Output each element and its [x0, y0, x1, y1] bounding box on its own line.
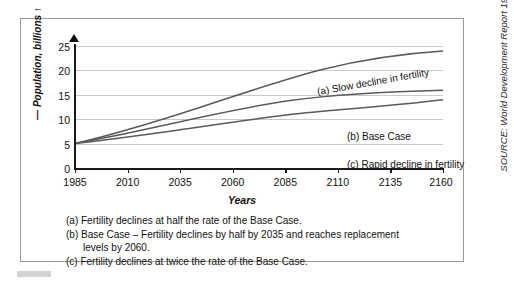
curve-label-b: (b) Base Case — [347, 131, 411, 142]
y-tick-label: 25 — [46, 42, 70, 53]
plot-area: (a) Slow decline in fertility (b) Base C… — [75, 46, 443, 168]
x-axis-title: Years — [20, 194, 464, 206]
x-tick-label: 2010 — [116, 176, 139, 188]
footnote-a: (a) Fertility declines at half the rate … — [66, 214, 456, 228]
y-axis-line — [74, 44, 76, 170]
y-tick-label: 10 — [46, 115, 70, 126]
x-tick-label: 2160 — [429, 176, 452, 188]
x-tick-label: 2085 — [274, 176, 297, 188]
chart-footnotes: (a) Fertility declines at half the rate … — [66, 214, 456, 268]
x-axis-ticks: 1985 2010 2035 2060 2085 2110 2135 2160 — [20, 168, 464, 194]
y-tick-label: 20 — [46, 66, 70, 77]
footnote-b-cont: levels by 2060. — [66, 241, 456, 255]
source-credit: SOURCE: World Development Report 1992 — [494, 0, 512, 288]
footnote-c: (c) Fertility declines at twice the rate… — [66, 255, 456, 269]
curve-a-slow-decline — [75, 51, 443, 144]
x-tickmark — [285, 168, 286, 173]
population-projection-chart: (a) Slow decline in fertility (b) Base C… — [20, 18, 464, 262]
y-axis-arrow-icon — [69, 34, 79, 42]
x-tick-label: 2035 — [168, 176, 191, 188]
source-credit-text: SOURCE: World Development Report 1992 — [498, 0, 509, 172]
projection-curves — [75, 46, 443, 168]
x-tickmark — [180, 168, 181, 173]
x-tick-label: 2135 — [379, 176, 402, 188]
footnote-b: (b) Base Case – Fertility declines by ha… — [66, 228, 456, 242]
x-tick-label: 2110 — [327, 176, 350, 188]
y-tick-label: 15 — [46, 91, 70, 102]
x-tick-label: 1985 — [63, 176, 86, 188]
frame-artifact — [17, 271, 51, 277]
x-tickmark — [233, 168, 234, 173]
x-tickmark — [338, 168, 339, 173]
y-tick-label: 5 — [46, 140, 70, 151]
x-tickmark — [443, 168, 444, 173]
x-tickmark — [390, 168, 391, 173]
y-axis-title: — Population, billions ↑ — [32, 4, 43, 124]
x-tickmark — [128, 168, 129, 173]
x-tick-label: 2060 — [221, 176, 244, 188]
x-tickmark — [75, 168, 76, 173]
